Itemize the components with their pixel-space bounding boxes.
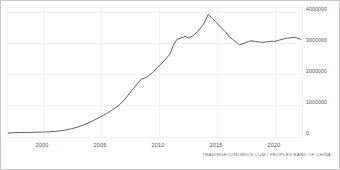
x-axis-tick-2005: 2005: [94, 143, 107, 149]
x-axis-tick-2010: 2010: [152, 143, 165, 149]
y-axis-tick-1000000: 1000000: [306, 100, 327, 105]
y-axis-tick-4000000: 4000000: [306, 7, 327, 12]
y-axis-tick-0: 0: [306, 131, 309, 136]
plot-area: [7, 7, 303, 138]
chart-container: 4000000 3000000 2000000 1000000 0 2000 2…: [0, 0, 340, 170]
y-axis-tick-2000000: 2000000: [306, 69, 327, 74]
x-axis-tick-2020: 2020: [268, 143, 281, 149]
source-attribution: TRADINGECONOMICS.COM | PEOPLES BANK OF C…: [202, 153, 331, 157]
x-axis-tick-2000: 2000: [36, 143, 49, 149]
series-line-foreign-exchange-reserves: [8, 8, 302, 137]
y-axis-tick-3000000: 3000000: [306, 38, 327, 43]
x-axis-tick-2015: 2015: [210, 143, 223, 149]
